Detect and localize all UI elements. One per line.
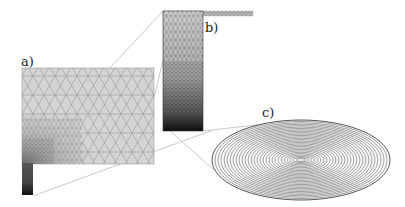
panel-c-rings bbox=[212, 120, 390, 200]
panel-c-label: c) bbox=[262, 106, 274, 119]
figure-canvas bbox=[0, 0, 405, 207]
panel-a-column bbox=[22, 163, 33, 195]
panel-b-label: b) bbox=[205, 21, 218, 34]
panel-a-label: a) bbox=[21, 55, 34, 68]
